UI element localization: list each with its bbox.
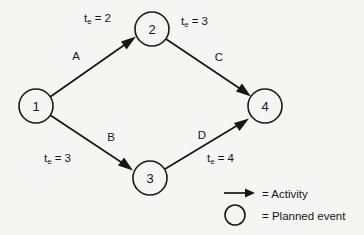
event-node-1-label: 1 — [32, 99, 39, 114]
event-node-4[interactable]: 4 — [248, 89, 282, 123]
te-label-c-value: = 3 — [192, 15, 208, 27]
activity-edge-d-arrowhead — [234, 119, 249, 132]
te-label-b-value: = 3 — [55, 152, 71, 164]
svg-text:te= 3: te= 3 — [181, 15, 208, 29]
event-node-2-label: 2 — [148, 22, 155, 37]
legend-item-planned-event: = Planned event — [225, 205, 346, 225]
activity-edge-a[interactable] — [50, 37, 136, 98]
activity-label-d: D — [198, 129, 206, 141]
event-node-2[interactable]: 2 — [135, 12, 169, 46]
legend-item-activity: = Activity — [224, 188, 308, 200]
legend-label-activity: = Activity — [262, 188, 308, 200]
te-label-d-value: = 4 — [218, 152, 235, 164]
te-label-c: te= 3 — [181, 15, 208, 29]
event-node-4-label: 4 — [261, 99, 268, 114]
activity-label-a: A — [72, 50, 80, 62]
arrow-right-icon — [245, 189, 255, 198]
activity-edge-c-line — [166, 39, 245, 92]
network-diagram-canvas: 1 2 3 4 A C B D te= 2 te= 3 — [0, 0, 364, 235]
te-label-d: te= 4 — [207, 152, 235, 166]
te-label-a-value: = 2 — [95, 12, 111, 24]
activity-edge-a-line — [50, 41, 130, 97]
activity-label-c: C — [215, 51, 223, 63]
activity-edge-b-arrowhead — [118, 158, 133, 171]
svg-text:te= 2: te= 2 — [84, 12, 111, 26]
svg-text:te= 4: te= 4 — [207, 152, 235, 166]
te-label-b-sub: e — [47, 157, 52, 166]
activity-label-b: B — [107, 131, 115, 143]
activity-edge-c-arrowhead — [236, 84, 251, 97]
circle-outline-icon — [225, 205, 245, 225]
network-diagram: 1 2 3 4 A C B D te= 2 te= 3 — [0, 0, 364, 235]
event-node-3[interactable]: 3 — [133, 161, 167, 195]
event-node-1[interactable]: 1 — [19, 89, 53, 123]
te-label-a: te= 2 — [84, 12, 111, 26]
te-label-c-sub: e — [184, 20, 189, 29]
activity-edge-c[interactable] — [166, 39, 251, 97]
te-label-b: te= 3 — [44, 152, 71, 166]
te-label-a-sub: e — [87, 17, 92, 26]
event-node-3-label: 3 — [146, 171, 153, 186]
legend-label-planned-event: = Planned event — [262, 210, 346, 222]
te-label-d-sub: e — [210, 157, 215, 166]
diagram-legend: = Activity = Planned event — [224, 188, 346, 226]
svg-text:te= 3: te= 3 — [44, 152, 71, 166]
activity-edge-a-arrowhead — [121, 37, 136, 50]
